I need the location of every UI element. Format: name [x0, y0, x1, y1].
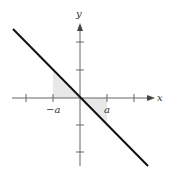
x-axis-arrow-icon	[147, 95, 155, 101]
graph: y x −a a	[0, 0, 170, 180]
tick-label-pos-a: a	[104, 104, 110, 115]
x-axis-label: x	[157, 92, 163, 103]
y-axis-label: y	[75, 8, 82, 19]
y-axis-arrow-icon	[77, 23, 83, 31]
tick-label-neg-a: −a	[46, 104, 60, 115]
